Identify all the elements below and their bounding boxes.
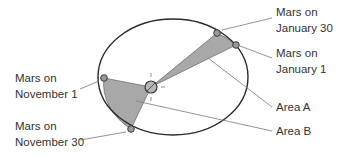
label-mars-nov1: Mars on November 1 — [15, 70, 78, 102]
label-line: November 1 — [15, 86, 78, 102]
label-line: Area B — [276, 123, 311, 139]
mars-jan1-icon — [233, 42, 240, 49]
label-mars-jan30: Mars on January 30 — [276, 4, 333, 36]
label-mars-jan1: Mars on January 1 — [276, 45, 327, 77]
label-area-a: Area A — [276, 99, 311, 115]
orbit-ellipse — [98, 19, 248, 135]
leader-nov1 — [80, 81, 99, 89]
leader-nov30 — [80, 132, 126, 140]
mars-nov1-icon — [101, 75, 108, 82]
leader-jan1 — [240, 46, 272, 58]
label-line: Area A — [276, 99, 311, 115]
label-line: January 1 — [276, 61, 327, 77]
label-line: Mars on — [15, 118, 84, 134]
area-b-region — [104, 78, 151, 129]
leader-area-a — [208, 58, 272, 107]
label-line: November 30 — [15, 134, 84, 150]
label-line: January 30 — [276, 20, 333, 36]
label-mars-nov30: Mars on November 30 — [15, 118, 84, 150]
label-line: Mars on — [15, 70, 78, 86]
leader-area-b — [136, 101, 272, 131]
label-area-b: Area B — [276, 123, 311, 139]
mars-jan30-icon — [214, 30, 221, 37]
label-line: Mars on — [276, 45, 327, 61]
leader-jan30 — [222, 18, 272, 30]
sun-icon — [145, 81, 157, 93]
label-line: Mars on — [276, 4, 333, 20]
mars-nov30-icon — [128, 126, 135, 133]
area-a-region — [151, 33, 236, 87]
